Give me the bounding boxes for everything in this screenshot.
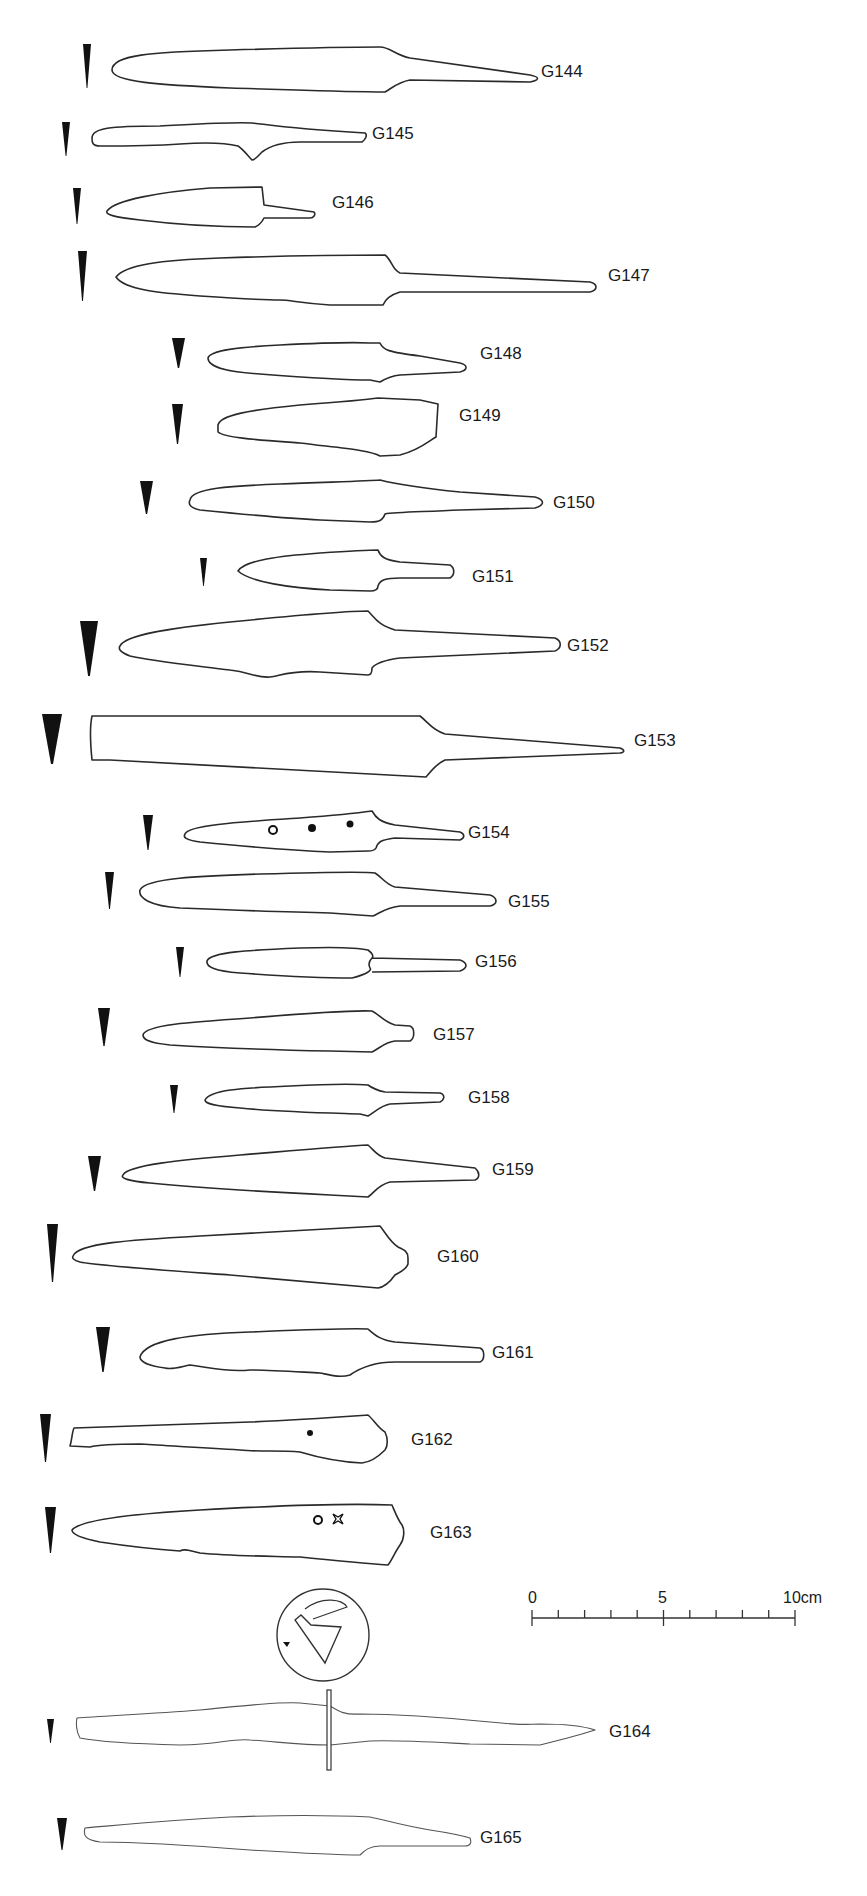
scale-label: 5 xyxy=(658,1590,667,1606)
knife-drawing-g157 xyxy=(98,1008,414,1052)
cross-section-icon xyxy=(57,1818,67,1850)
catalog-label-g156: G156 xyxy=(475,953,517,970)
catalog-label-g159: G159 xyxy=(492,1161,534,1178)
knife-outline xyxy=(84,1816,470,1856)
knife-outline xyxy=(92,123,366,160)
knife-outline xyxy=(116,255,596,305)
cross-section-icon xyxy=(78,251,87,301)
knife-outline xyxy=(112,47,538,92)
knife-drawing-g153 xyxy=(42,714,624,777)
knife-outline xyxy=(70,1415,387,1463)
knife-drawing-g164 xyxy=(47,1589,595,1770)
knife-outline xyxy=(76,1703,595,1745)
hilt-guard xyxy=(327,1690,331,1770)
scale-label: 0 xyxy=(528,1590,537,1606)
knife-outline xyxy=(72,1504,404,1565)
cross-section-icon xyxy=(170,1085,178,1113)
knife-outline xyxy=(208,343,466,382)
knife-drawing-g156 xyxy=(176,947,466,978)
knife-outline xyxy=(184,811,463,852)
knife-drawing-g148 xyxy=(172,338,466,382)
knife-drawing-g151 xyxy=(200,550,454,591)
knife-drawing-g149 xyxy=(172,398,438,456)
catalog-label-g163: G163 xyxy=(430,1524,472,1541)
knife-outline xyxy=(189,480,542,522)
knife-outline xyxy=(218,398,438,456)
knife-outline xyxy=(107,187,315,227)
catalog-label-g151: G151 xyxy=(472,568,514,585)
catalog-label-g160: G160 xyxy=(437,1248,479,1265)
knife-outline xyxy=(140,1329,484,1377)
knife-drawing-g163 xyxy=(45,1504,404,1565)
figure-canvas xyxy=(0,0,867,1896)
cross-section-icon xyxy=(172,338,185,368)
knife-drawing-g155 xyxy=(105,872,496,916)
knife-outline xyxy=(73,1226,408,1288)
catalog-label-g153: G153 xyxy=(634,732,676,749)
cross-section-icon xyxy=(47,1224,58,1282)
knife-drawing-g146 xyxy=(73,187,315,227)
cross-section-icon xyxy=(40,1414,51,1462)
catalog-label-g164: G164 xyxy=(609,1723,651,1740)
knife-drawing-g144 xyxy=(83,44,538,92)
catalog-label-g155: G155 xyxy=(508,893,550,910)
cross-section-icon xyxy=(47,1719,54,1743)
catalog-label-g145: G145 xyxy=(372,125,414,142)
cross-section-icon xyxy=(98,1008,110,1046)
knife-drawing-g160 xyxy=(47,1224,408,1288)
cross-section-icon xyxy=(200,558,207,586)
cross-section-icon xyxy=(42,714,62,764)
cross-section-icon xyxy=(45,1507,56,1553)
catalog-label-g149: G149 xyxy=(459,407,501,424)
catalog-label-g161: G161 xyxy=(492,1344,534,1361)
knife-drawing-g162 xyxy=(40,1414,387,1463)
knife-drawing-g152 xyxy=(80,611,560,677)
catalog-label-g158: G158 xyxy=(468,1089,510,1106)
knife-outline xyxy=(143,1011,414,1052)
knife-drawing-g161 xyxy=(96,1327,484,1376)
knife-outline xyxy=(140,872,496,916)
catalog-label-g165: G165 xyxy=(480,1829,522,1846)
cross-section-icon xyxy=(62,122,70,156)
cross-section-icon xyxy=(172,404,183,444)
knife-outline xyxy=(122,1145,478,1197)
cross-section-icon xyxy=(80,621,98,676)
catalog-label-g157: G157 xyxy=(433,1026,475,1043)
knife-outline xyxy=(91,716,624,777)
catalog-label-g147: G147 xyxy=(608,267,650,284)
cross-section-icon xyxy=(96,1327,110,1372)
cross-section-icon xyxy=(143,815,153,850)
catalog-label-g148: G148 xyxy=(480,345,522,362)
knife-drawing-g145 xyxy=(62,122,366,160)
catalog-label-g144: G144 xyxy=(541,63,583,80)
cross-section-icon xyxy=(176,947,184,977)
knife-drawing-g150 xyxy=(140,480,543,522)
knife-outline xyxy=(119,611,560,677)
cross-section-icon xyxy=(88,1156,101,1191)
catalog-label-g150: G150 xyxy=(553,494,595,511)
catalog-label-g152: G152 xyxy=(567,637,609,654)
knife-drawing-g147 xyxy=(78,251,596,305)
catalog-label-g146: G146 xyxy=(332,194,374,211)
knife-outline xyxy=(207,947,466,978)
scale-label: 10cm xyxy=(783,1590,822,1606)
knife-outline xyxy=(205,1084,444,1116)
cross-section-icon xyxy=(73,188,81,224)
knife-drawing-g154 xyxy=(143,811,464,852)
cross-section-icon xyxy=(83,44,91,88)
cross-section-icon xyxy=(140,481,153,514)
catalog-label-g162: G162 xyxy=(411,1431,453,1448)
knife-outline xyxy=(238,550,454,591)
knife-drawing-g165 xyxy=(57,1816,471,1856)
catalog-label-g154: G154 xyxy=(468,824,510,841)
knife-drawing-g159 xyxy=(88,1145,479,1197)
cross-section-icon xyxy=(105,872,114,909)
scale-bar xyxy=(532,1610,795,1626)
knife-drawing-g158 xyxy=(170,1084,444,1116)
